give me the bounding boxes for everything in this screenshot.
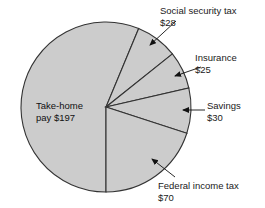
callout-label-federal-income-tax: Federal income tax $70 <box>158 180 239 203</box>
pie-chart-figure: Social security tax $28 Insurance $25 Sa… <box>0 0 265 208</box>
callout-label-savings-name: Savings <box>207 100 241 112</box>
callout-label-insurance-value: $25 <box>195 64 237 76</box>
callout-label-social-security-tax-name: Social security tax <box>160 5 237 17</box>
slice-label-take-home-pay: Take-home pay $197 <box>36 100 83 124</box>
callout-label-social-security-tax: Social security tax $28 <box>160 5 237 28</box>
slice-label-take-home-pay-line1: Take-home <box>36 100 83 112</box>
callout-label-savings-value: $30 <box>207 112 241 124</box>
callout-label-federal-income-tax-value: $70 <box>158 192 239 204</box>
callout-label-insurance: Insurance $25 <box>195 52 237 75</box>
slice-label-take-home-pay-line2: pay $197 <box>36 112 83 124</box>
callout-label-federal-income-tax-name: Federal income tax <box>158 180 239 192</box>
callout-label-savings: Savings $30 <box>207 100 241 123</box>
callout-label-social-security-tax-value: $28 <box>160 17 237 29</box>
callout-label-insurance-name: Insurance <box>195 52 237 64</box>
